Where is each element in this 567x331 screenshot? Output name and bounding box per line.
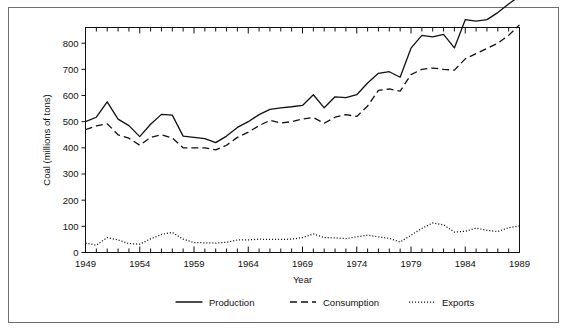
legend-label-consumption: Consumption: [323, 297, 379, 308]
x-tick-label-1964: 1964: [238, 258, 259, 269]
y-tick-label-200: 200: [63, 195, 79, 206]
line-chart: 0100200300400500600700800194919541959196…: [0, 0, 567, 331]
series-line-exports: [86, 223, 520, 245]
y-tick-label-0: 0: [73, 247, 78, 258]
y-tick-label-100: 100: [63, 221, 79, 232]
x-tick-label-1959: 1959: [183, 258, 204, 269]
x-axis-title: Year: [293, 274, 312, 285]
y-tick-label-800: 800: [63, 38, 79, 49]
x-tick-label-1989: 1989: [509, 258, 530, 269]
tick-labels-group: 0100200300400500600700800194919541959196…: [63, 38, 530, 269]
legend-label-exports: Exports: [442, 297, 474, 308]
x-tick-label-1969: 1969: [292, 258, 313, 269]
y-tick-label-400: 400: [63, 142, 79, 153]
y-tick-label-600: 600: [63, 90, 79, 101]
x-tick-label-1979: 1979: [400, 258, 421, 269]
chart-legend: ProductionConsumptionExports: [176, 297, 474, 308]
coal-chart-figure: 0100200300400500600700800194919541959196…: [0, 0, 567, 331]
series-line-consumption: [86, 25, 520, 150]
y-tick-label-500: 500: [63, 116, 79, 127]
x-tick-label-1974: 1974: [346, 258, 367, 269]
x-tick-label-1984: 1984: [455, 258, 476, 269]
plot-frame: [86, 28, 520, 253]
y-tick-label-700: 700: [63, 64, 79, 75]
x-tick-label-1949: 1949: [75, 258, 96, 269]
x-tick-label-1954: 1954: [129, 258, 150, 269]
legend-label-production: Production: [209, 297, 254, 308]
data-series-group: [86, 0, 520, 245]
y-axis-title: Coal (millions of tons): [41, 94, 52, 185]
plot-area-wrapper: 0100200300400500600700800194919541959196…: [0, 0, 567, 331]
y-tick-label-300: 300: [63, 168, 79, 179]
series-line-production: [86, 0, 520, 143]
